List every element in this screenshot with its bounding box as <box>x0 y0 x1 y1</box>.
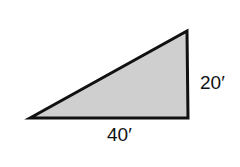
height-label: 20′ <box>200 73 225 92</box>
base-label: 40′ <box>107 125 132 144</box>
right-triangle <box>30 31 188 118</box>
